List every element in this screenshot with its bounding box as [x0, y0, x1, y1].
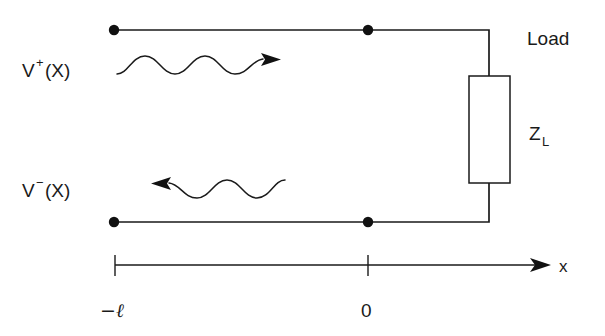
reflected-wave-argument: (X): [45, 180, 70, 201]
reflected-wave-label: V − (X): [22, 175, 70, 201]
terminal-node-dot-icon: [363, 25, 373, 35]
load-label: Load: [527, 28, 569, 49]
incident-wave-argument: (X): [45, 60, 70, 81]
x-axis-label: x: [559, 257, 568, 276]
terminal-node-dot-icon: [109, 217, 119, 227]
reflected-wave-symbol: V: [22, 180, 35, 201]
load-impedance-box: [469, 76, 510, 183]
tick-label-minus-ell: −ℓ: [100, 299, 124, 321]
load-impedance-label: Z L: [529, 123, 549, 149]
transmission-line-diagram: V + (X) V − (X) Load Z L x −ℓ 0: [0, 0, 605, 336]
top-conductor-wire: [114, 30, 489, 76]
wave-arrow-right-icon: [117, 53, 281, 74]
incident-wave-symbol: V: [22, 60, 35, 81]
diagram-canvas: V + (X) V − (X) Load Z L x −ℓ 0: [0, 0, 605, 336]
reflected-wave-superscript: −: [36, 175, 44, 190]
wave-arrow-left-icon: [151, 177, 285, 198]
incident-wave-label: V + (X): [22, 55, 70, 81]
incident-wave-superscript: +: [36, 55, 44, 70]
impedance-symbol: Z: [529, 123, 541, 144]
terminal-node-dot-icon: [109, 25, 119, 35]
terminal-node-dot-icon: [363, 217, 373, 227]
tick-label-zero: 0: [361, 300, 372, 321]
impedance-subscript: L: [542, 134, 549, 149]
